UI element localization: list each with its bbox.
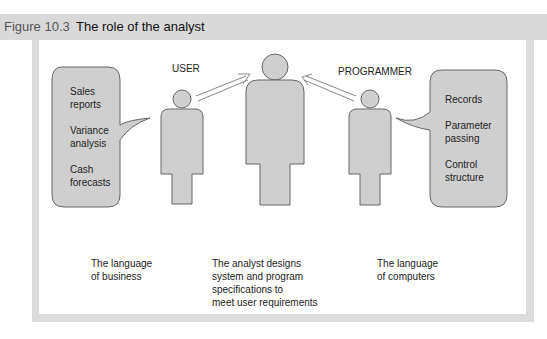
left-bubble-text: Sales reports Variance analysis Cash for…: [70, 85, 111, 189]
programmer-to-analyst-arrow-icon: [302, 74, 356, 101]
bubble-item: reports: [70, 98, 111, 111]
caption-right: The language of computers: [377, 257, 438, 283]
right-bubble-text: Records Parameter passing Control struct…: [445, 93, 492, 184]
caption-line: The language: [91, 257, 152, 270]
caption-line: The analyst designs: [212, 257, 318, 270]
bubble-item: Parameter: [445, 119, 492, 132]
bubble-item: Records: [445, 93, 492, 106]
caption-line: specifications to: [212, 283, 318, 296]
analyst-figure: [246, 54, 304, 205]
caption-line: of business: [91, 270, 152, 283]
bubble-item: Control: [445, 158, 492, 171]
caption-line: meet user requirements: [212, 296, 318, 309]
bubble-item: Sales: [70, 85, 111, 98]
caption-left: The language of business: [91, 257, 152, 283]
user-figure: [161, 90, 203, 204]
bubble-item: Variance: [70, 124, 111, 137]
bubble-item: Cash: [70, 163, 111, 176]
caption-center: The analyst designs system and program s…: [212, 257, 318, 309]
caption-line: system and program: [212, 270, 318, 283]
bubble-item: passing: [445, 132, 492, 145]
programmer-role-label: PROGRAMMER: [338, 65, 412, 78]
bubble-item: structure: [445, 171, 492, 184]
caption-line: of computers: [377, 270, 438, 283]
user-to-analyst-arrow-icon: [196, 74, 250, 101]
user-role-label: USER: [172, 62, 200, 75]
bubble-item: forecasts: [70, 176, 111, 189]
caption-line: The language: [377, 257, 438, 270]
programmer-figure: [349, 90, 391, 205]
bubble-item: analysis: [70, 137, 111, 150]
